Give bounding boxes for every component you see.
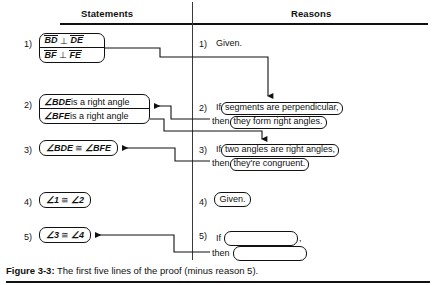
figure-caption-label: Figure 3-3: [6,265,55,276]
wire-reason5-to-stmt5 [96,235,210,252]
proof-figure: Statements Reasons 1) BD ⊥ DE BF ⊥ FE 2)… [0,0,436,285]
figure-caption: Figure 3-3: The first five lines of the … [6,265,258,276]
wire-reason3-to-stmt3 [123,148,210,161]
wire-stmt1-to-reason2 [105,48,268,96]
figure-caption-text: The first five lines of the proof (minus… [57,265,258,276]
caption-rule [6,281,430,283]
connector-wires [0,0,436,285]
wire-reason2-to-stmt2 [155,106,210,119]
wire-stmt2-to-reason3 [150,119,262,139]
